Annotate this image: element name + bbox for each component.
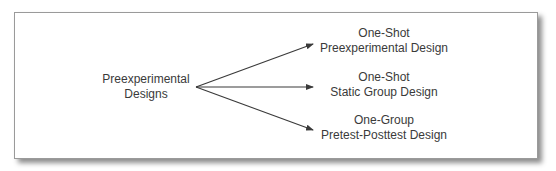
root-node-line2: Designs <box>100 87 192 102</box>
root-node-preexperimental-designs: Preexperimental Designs <box>100 72 192 102</box>
leaf-node-one-group-pretest-posttest: One-Group Pretest-Posttest Design <box>316 113 452 143</box>
root-node-line1: Preexperimental <box>100 72 192 87</box>
leaf-node-line1: One-Shot <box>316 70 452 85</box>
leaf-node-line1: One-Group <box>316 113 452 128</box>
leaf-node-line1: One-Shot <box>316 26 452 41</box>
leaf-node-line2: Pretest-Posttest Design <box>316 128 452 143</box>
leaf-node-line2: Preexperimental Design <box>316 41 452 56</box>
leaf-node-one-shot-static-group: One-Shot Static Group Design <box>316 70 452 100</box>
diagram-frame <box>14 12 538 159</box>
leaf-node-one-shot-preexperimental: One-Shot Preexperimental Design <box>316 26 452 56</box>
leaf-node-line2: Static Group Design <box>316 85 452 100</box>
